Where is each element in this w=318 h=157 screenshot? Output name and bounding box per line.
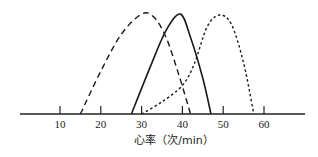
heart-rate-distribution-chart: 102030405060 心率（次/min） xyxy=(0,0,318,157)
solid-curve xyxy=(131,14,211,114)
curves xyxy=(80,13,253,114)
x-axis-label: 心率（次/min） xyxy=(134,133,213,147)
x-tick-label: 60 xyxy=(259,118,271,130)
x-tick-label: 50 xyxy=(218,118,230,130)
dotted-curve xyxy=(142,15,254,114)
x-tick-label: 10 xyxy=(55,118,67,130)
x-tick-label: 20 xyxy=(95,118,107,130)
x-tick-label: 40 xyxy=(177,118,189,130)
x-axis-ticks: 102030405060 xyxy=(55,106,271,130)
x-tick-label: 30 xyxy=(136,118,148,130)
dashed-curve xyxy=(80,13,190,114)
